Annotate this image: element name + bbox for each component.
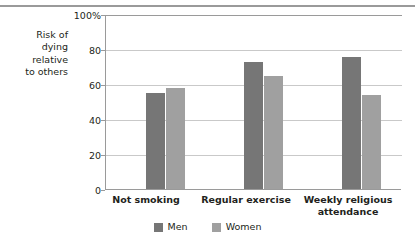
bar-women-regular-exercise [264,76,283,189]
bar-chart-figure: Risk of dying relative to others 100% 80… [0,0,415,247]
x-axis-label-regular-exercise-line-1: Regular exercise [192,194,300,206]
x-axis-label-weekly-religious-attendance-line-2: attendance [292,206,404,218]
x-axis-label-not-smoking: Not smoking [96,194,196,206]
legend-swatch-men [154,223,163,232]
bar-women-weekly-religious-attendance [362,95,381,189]
chart-legend: Men Women [0,222,415,232]
y-axis-label-line-4: to others [2,66,68,78]
x-axis-label-weekly-religious-attendance: Weekly religious attendance [292,194,404,217]
x-axis-label-weekly-religious-attendance-line-1: Weekly religious [292,194,404,206]
legend-label-men: Men [168,222,188,232]
bar-men-regular-exercise [244,62,263,189]
bar-men-not-smoking [146,93,165,189]
legend-swatch-women [212,223,221,232]
x-axis-label-not-smoking-line-1: Not smoking [96,194,196,206]
y-tick-label-0: 0 [41,186,101,196]
y-tick-label-40: 40 [41,116,101,126]
bar-series-container [106,15,401,189]
legend-item-women: Women [212,222,262,232]
y-tick-label-100: 100% [41,11,101,21]
bar-men-weekly-religious-attendance [342,57,361,189]
legend-label-women: Women [226,222,262,232]
x-axis-label-regular-exercise: Regular exercise [192,194,300,206]
y-tick-mark-0 [101,190,105,191]
y-axis-label-line-1: Risk of [2,29,68,41]
legend-item-men: Men [154,222,188,232]
bar-women-not-smoking [166,88,185,189]
y-tick-label-20: 20 [41,151,101,161]
y-tick-label-80: 80 [41,46,101,56]
y-tick-label-60: 60 [41,81,101,91]
